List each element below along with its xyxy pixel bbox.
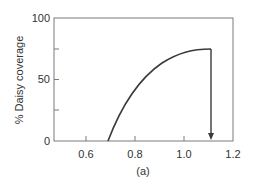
x-tick-label-0.8: 0.8 bbox=[127, 148, 142, 160]
arrow-down-icon bbox=[208, 133, 214, 140]
x-tick-label-0.6: 0.6 bbox=[78, 148, 93, 160]
y-tick-label-100: 100 bbox=[32, 12, 50, 24]
x-tick-label-1.2: 1.2 bbox=[225, 148, 240, 160]
x-tick-label-1.0: 1.0 bbox=[176, 148, 191, 160]
figure-caption: (a) bbox=[136, 165, 149, 177]
x-ticks bbox=[86, 136, 184, 141]
y-tick-label-0: 0 bbox=[44, 135, 50, 147]
coverage-curve bbox=[108, 49, 211, 141]
y-ticks bbox=[54, 49, 59, 110]
daisy-coverage-chart: 0 50 100 0.6 0.8 1.0 1.2 (a) % Daisy cov… bbox=[0, 0, 255, 182]
y-axis-label: % Daisy coverage bbox=[13, 36, 25, 125]
y-tick-label-50: 50 bbox=[38, 73, 50, 85]
